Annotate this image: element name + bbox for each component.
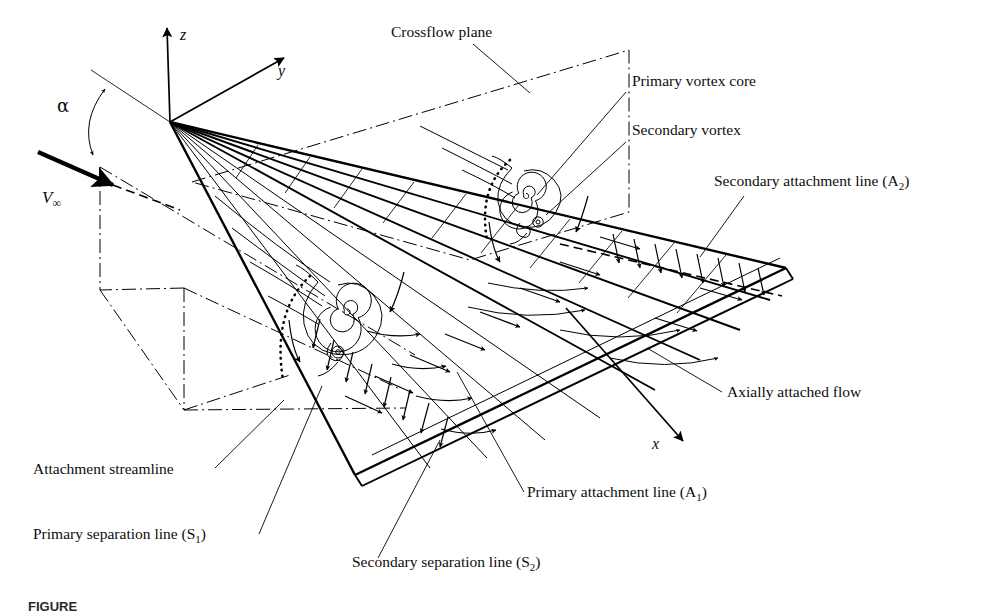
delta-wing-vortex-diagram: z y x α V∞ [0, 0, 987, 614]
label-crossflow-plane: Crossflow plane [391, 23, 492, 40]
label-secondary-vortex: Secondary vortex [632, 121, 741, 138]
y-axis-label: y [276, 62, 286, 80]
figure-root: z y x α V∞ [0, 0, 987, 614]
label-primary-vortex-core: Primary vortex core [632, 72, 756, 89]
label-axially-attached-flow: Axially attached flow [727, 383, 862, 400]
label-attachment-streamline: Attachment streamline [33, 460, 174, 477]
figure-caption-number: FIGURE [28, 599, 77, 614]
canvas-background [0, 0, 987, 614]
angle-of-attack-label: α [57, 95, 69, 116]
z-axis-label: z [179, 26, 187, 43]
x-axis-label: x [651, 435, 659, 452]
